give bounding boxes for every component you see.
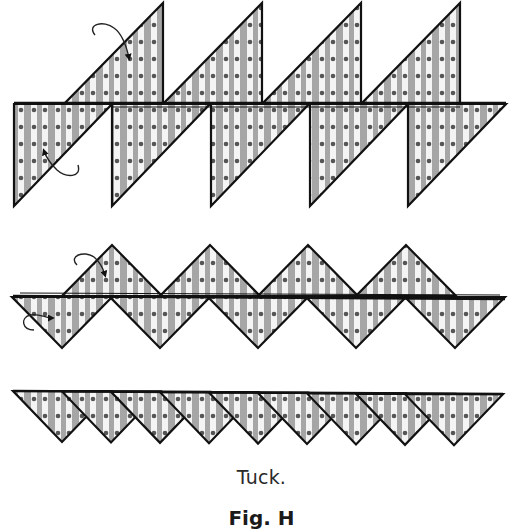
upper-zigzag-triangle: [62, 245, 162, 296]
lower-triangle-unit: [310, 104, 408, 206]
lower-zigzag-triangle: [306, 297, 406, 348]
upper-triangle-unit: [164, 3, 262, 103]
lower-triangle-unit: [211, 104, 309, 206]
lower-zigzag-triangle: [208, 297, 308, 348]
row-bottom-tucked: [13, 391, 503, 445]
lower-zigzag-triangle: [405, 297, 505, 348]
lower-zigzag-triangle: [12, 297, 112, 348]
upper-triangle-unit: [362, 3, 460, 103]
upper-triangle-unit: [65, 3, 163, 103]
row-middle-zigzag: [12, 245, 505, 348]
row-top-staggered: [14, 3, 506, 206]
lower-zigzag-triangle: [110, 297, 210, 348]
upper-zigzag-triangle: [258, 245, 358, 296]
upper-zigzag-triangle: [160, 245, 260, 296]
lower-triangle-unit: [112, 104, 210, 206]
lower-triangle-unit: [14, 104, 112, 206]
figure-label: Fig. H: [0, 506, 523, 530]
caption-tuck: Tuck.: [0, 466, 523, 488]
lower-triangle-unit: [408, 104, 506, 206]
upper-triangle-unit: [263, 3, 361, 103]
upper-zigzag-triangle: [356, 245, 456, 296]
